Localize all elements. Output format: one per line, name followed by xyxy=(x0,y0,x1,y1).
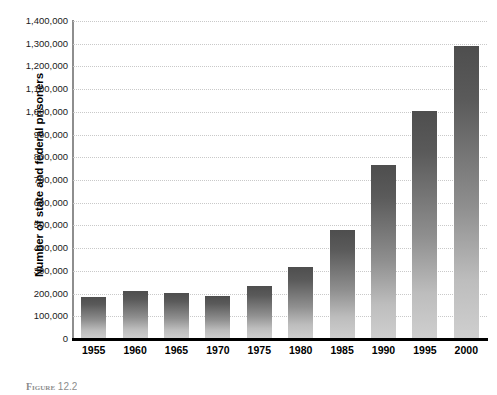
gridline xyxy=(73,21,487,22)
y-axis-tick-labels: 0100,000200,000300,000400,000500,000600,… xyxy=(0,21,68,339)
bar xyxy=(454,46,479,339)
bar xyxy=(288,267,313,339)
y-tick-label: 1,100,000 xyxy=(4,84,68,94)
y-tick-label: 400,000 xyxy=(4,243,68,253)
x-tick-label: 2000 xyxy=(446,344,487,356)
caption-label: Figure xyxy=(26,381,55,392)
y-tick-label: 1,000,000 xyxy=(4,107,68,117)
x-tick-label: 1995 xyxy=(404,344,445,356)
x-tick-label: 1965 xyxy=(156,344,197,356)
plot-area xyxy=(73,21,487,339)
bar xyxy=(412,111,437,339)
gridline xyxy=(73,44,487,45)
caption-text: 12.2 xyxy=(58,381,77,392)
y-tick-label: 100,000 xyxy=(4,311,68,321)
y-tick-label: 200,000 xyxy=(4,289,68,299)
bar xyxy=(164,293,189,339)
x-tick-label: 1960 xyxy=(114,344,155,356)
x-tick-label: 1955 xyxy=(73,344,114,356)
bar xyxy=(371,165,396,339)
y-tick-label: 0 xyxy=(4,334,68,344)
y-tick-label: 600,000 xyxy=(4,198,68,208)
gridline xyxy=(73,66,487,67)
bar xyxy=(247,286,272,339)
y-tick-label: 1,200,000 xyxy=(4,61,68,71)
y-tick-label: 700,000 xyxy=(4,175,68,185)
bar xyxy=(81,297,106,339)
bar xyxy=(205,296,230,339)
x-axis-line xyxy=(72,338,488,341)
x-tick-label: 1970 xyxy=(197,344,238,356)
bar xyxy=(123,291,148,339)
y-tick-label: 800,000 xyxy=(4,152,68,162)
chart-figure: Number of state and federal prisoners 01… xyxy=(0,0,497,395)
y-tick-label: 1,400,000 xyxy=(4,16,68,26)
x-tick-label: 1980 xyxy=(280,344,321,356)
y-tick-label: 900,000 xyxy=(4,130,68,140)
y-tick-label: 300,000 xyxy=(4,266,68,276)
x-tick-label: 1985 xyxy=(321,344,362,356)
y-tick-label: 500,000 xyxy=(4,220,68,230)
bar xyxy=(330,230,355,339)
gridline xyxy=(73,89,487,90)
y-tick-label: 1,300,000 xyxy=(4,39,68,49)
x-axis-tick-labels: 1955196019651970197519801985199019952000 xyxy=(73,344,487,362)
x-tick-label: 1990 xyxy=(363,344,404,356)
figure-caption: Figure 12.2 xyxy=(26,381,77,395)
x-tick-label: 1975 xyxy=(239,344,280,356)
